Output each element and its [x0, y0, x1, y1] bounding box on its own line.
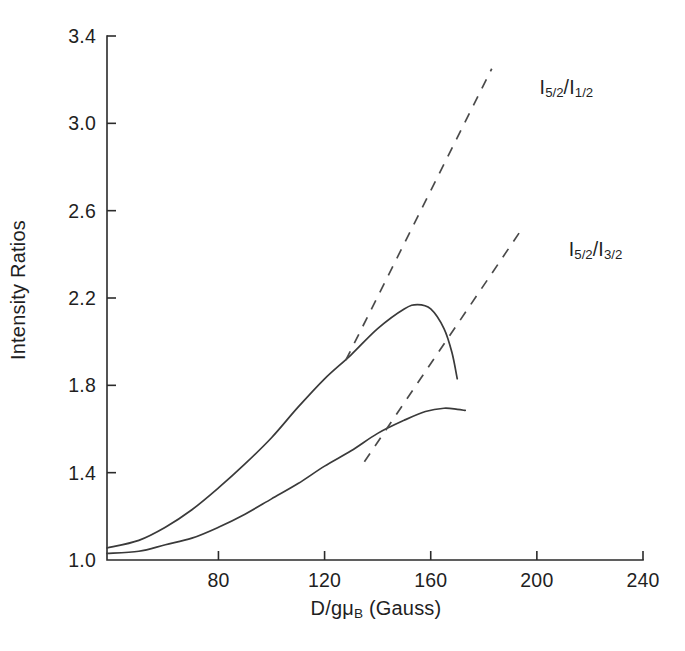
- x-tick-label: 160: [414, 569, 447, 592]
- x-tick-label: 80: [207, 569, 229, 592]
- y-tick-label: 3.4: [68, 25, 96, 48]
- asymptote-line: [346, 69, 492, 360]
- y-tick-label: 3.0: [68, 112, 96, 135]
- axes-group: [107, 36, 643, 560]
- y-tick-label: 2.6: [68, 199, 96, 222]
- x-axis-title-prefix: D/gμ: [311, 597, 354, 619]
- curve-label: I5/2/I1/2: [540, 76, 594, 100]
- x-tick-label: 240: [626, 569, 659, 592]
- x-tick-label: 200: [520, 569, 553, 592]
- y-tick-label: 1.8: [68, 374, 96, 397]
- data-curve: [107, 408, 465, 553]
- ticks-group: [107, 36, 643, 560]
- curve-label-denominator-sub: 1/2: [575, 85, 593, 100]
- x-tick-label: 120: [308, 569, 341, 592]
- curve-label-numerator-sub: 5/2: [574, 247, 592, 262]
- chart-figure: 1.01.41.82.22.63.03.4 80120160200240 Int…: [0, 0, 685, 651]
- x-axis-title-suffix: (Gauss): [363, 597, 441, 619]
- axis-lines: [107, 36, 643, 560]
- curve-label-denominator-sub: 3/2: [604, 247, 622, 262]
- y-axis-title: Intensity Ratios: [7, 220, 30, 360]
- data-curve: [107, 305, 457, 548]
- curve-label-numerator-sub: 5/2: [545, 85, 563, 100]
- series-group: [107, 69, 521, 554]
- asymptote-line: [364, 230, 521, 461]
- x-axis-title-subscript: B: [354, 606, 363, 621]
- y-tick-label: 1.4: [68, 461, 96, 484]
- y-tick-label: 2.2: [68, 287, 96, 310]
- x-axis-title: D/gμB (Gauss): [311, 597, 442, 621]
- curve-label: I5/2/I3/2: [569, 238, 623, 262]
- y-tick-label: 1.0: [68, 549, 96, 572]
